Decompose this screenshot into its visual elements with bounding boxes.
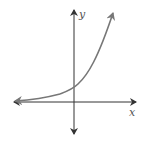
exponential-curve-left	[15, 94, 60, 101]
x-axis-label: x	[129, 106, 136, 119]
chart-canvas: y x	[0, 0, 147, 143]
y-axis-label: y	[78, 8, 86, 21]
exponential-curve	[60, 13, 113, 94]
